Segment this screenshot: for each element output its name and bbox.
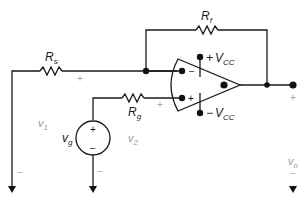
svg-text:+: + bbox=[157, 99, 163, 110]
junction-output bbox=[264, 82, 270, 88]
svg-text:+: + bbox=[77, 73, 83, 84]
rs-label: Rs bbox=[45, 50, 58, 66]
v1-terminal: + v1 − bbox=[8, 73, 83, 193]
ground-arrow-middle bbox=[89, 186, 97, 193]
svg-text:+VCC: +VCC bbox=[206, 51, 235, 67]
resistor-rg bbox=[122, 94, 144, 102]
svg-text:−: − bbox=[189, 66, 195, 77]
resistor-rs bbox=[40, 67, 62, 75]
v2-label: v2 bbox=[128, 132, 139, 147]
voltage-source-vg: + − vg − bbox=[62, 121, 110, 193]
v1-label: v1 bbox=[38, 117, 48, 132]
rg-branch: Rg + bbox=[93, 94, 182, 121]
ground-arrow-right bbox=[289, 186, 297, 193]
ground-arrow-left bbox=[8, 186, 16, 193]
svg-text:+: + bbox=[90, 124, 96, 135]
rf-label: Rf bbox=[201, 9, 213, 25]
svg-text:+: + bbox=[290, 92, 296, 103]
svg-text:−: − bbox=[97, 166, 103, 177]
svg-text:−: − bbox=[90, 143, 96, 154]
svg-text:−: − bbox=[17, 167, 23, 178]
svg-text:−: − bbox=[290, 168, 296, 179]
vo-terminal: + vo − bbox=[288, 92, 299, 193]
svg-text:+: + bbox=[188, 93, 194, 104]
op-amp-circuit-diagram: Rs + v1 − Rf − + +VCC −VCC bbox=[0, 0, 308, 202]
rg-label: Rg bbox=[128, 105, 142, 121]
op-amp: − + +VCC −VCC bbox=[146, 51, 297, 122]
rs-branch: Rs bbox=[12, 50, 177, 96]
resistor-rf bbox=[196, 26, 218, 34]
vg-label: vg bbox=[62, 131, 73, 147]
rf-branch: Rf bbox=[143, 9, 267, 85]
output-terminal bbox=[289, 81, 296, 88]
svg-text:−VCC: −VCC bbox=[206, 106, 235, 122]
